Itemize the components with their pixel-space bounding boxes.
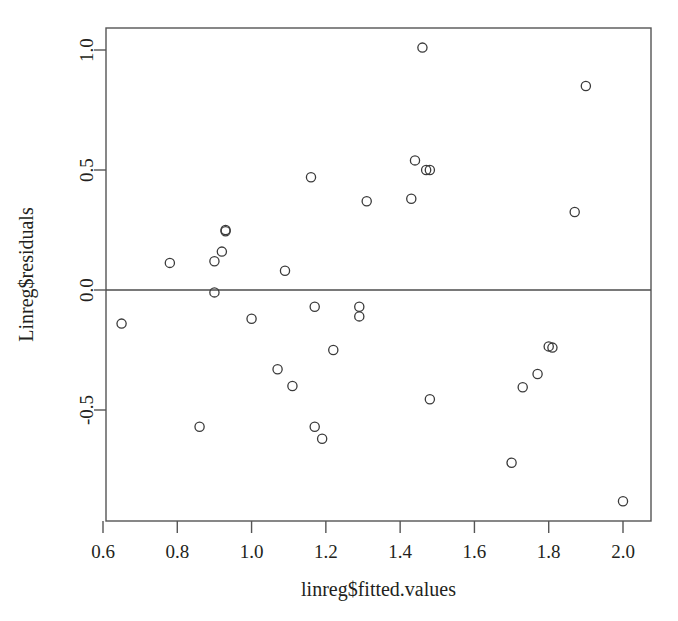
x-tick-label: 1.2 — [314, 541, 338, 562]
data-point — [280, 266, 289, 275]
data-point — [210, 257, 219, 266]
plot-frame — [106, 28, 651, 521]
data-point — [518, 383, 527, 392]
data-point — [306, 173, 315, 182]
x-tick-label: 1.4 — [388, 541, 412, 562]
x-axis-title: linreg$fitted.values — [301, 578, 456, 601]
data-point — [165, 258, 174, 267]
y-tick-label: -0.5 — [76, 395, 97, 425]
x-tick-label: 1.8 — [537, 541, 561, 562]
data-point — [355, 302, 364, 311]
y-tick-label: 1.0 — [76, 38, 97, 62]
data-point — [310, 422, 319, 431]
data-point — [425, 395, 434, 404]
x-tick-label: 0.8 — [165, 541, 189, 562]
data-point — [210, 288, 219, 297]
data-point — [329, 345, 338, 354]
data-point — [318, 434, 327, 443]
x-tick-label: 1.0 — [240, 541, 264, 562]
y-tick-label: 0.5 — [76, 158, 97, 182]
y-tick-label: 0.0 — [76, 278, 97, 302]
x-tick-label: 2.0 — [611, 541, 635, 562]
data-point — [355, 312, 364, 321]
x-tick-label: 0.6 — [91, 541, 115, 562]
data-point — [407, 194, 416, 203]
x-tick-label: 1.6 — [463, 541, 487, 562]
data-point — [410, 156, 419, 165]
y-axis-title: Linreg$residuals — [15, 207, 38, 342]
data-point — [288, 381, 297, 390]
data-point — [418, 43, 427, 52]
data-point — [273, 365, 282, 374]
data-point — [507, 458, 516, 467]
data-point — [117, 319, 126, 328]
data-point — [310, 302, 319, 311]
data-point — [195, 422, 204, 431]
data-point — [581, 81, 590, 90]
scatter-plot-svg: 0.60.81.01.21.41.61.82.0-0.50.00.51.0lin… — [0, 0, 678, 621]
data-point — [570, 207, 579, 216]
data-point — [247, 314, 256, 323]
data-point — [362, 197, 371, 206]
data-point — [217, 247, 226, 256]
data-point — [618, 497, 627, 506]
data-point — [533, 369, 542, 378]
residual-plot-figure: 0.60.81.01.21.41.61.82.0-0.50.00.51.0lin… — [0, 0, 678, 621]
